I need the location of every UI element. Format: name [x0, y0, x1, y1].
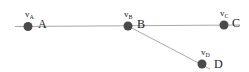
node-a-var: vA [25, 9, 35, 20]
node-b-label: B [137, 17, 145, 31]
node-b [124, 22, 133, 31]
graph-diagram: vA A vB B vC C vD D [0, 0, 249, 72]
node-c-label: C [232, 16, 240, 30]
node-c-var: vC [220, 8, 229, 19]
node-b-var: vB [124, 9, 133, 20]
edge-b-d [128, 26, 210, 69]
node-c [220, 21, 229, 30]
node-d-var: vD [201, 47, 211, 58]
node-d-label: D [214, 57, 223, 71]
node-d [198, 60, 207, 69]
node-a-label: A [38, 17, 47, 31]
node-a [24, 22, 33, 31]
